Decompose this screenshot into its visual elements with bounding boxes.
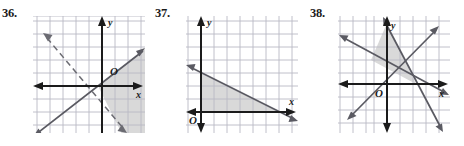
coordinate-plane-36: y x O [33, 16, 145, 133]
x-axis-label-38: x [438, 88, 444, 99]
x-axis-label-37: x [288, 96, 294, 107]
y-axis-label-37: y [206, 17, 212, 28]
problem-number-36: 36. [2, 6, 17, 21]
worksheet-figure-row: 36. [0, 0, 464, 146]
shaded-region-38 [371, 23, 416, 84]
graph-svg-38: y x O [338, 16, 450, 133]
grid-lines-36 [33, 16, 145, 133]
shade-polygon-38 [371, 23, 416, 84]
origin-label-37: O [189, 114, 197, 126]
origin-label-36: O [110, 65, 118, 77]
problem-number-37: 37. [155, 6, 170, 21]
graph-svg-36: y x O [33, 16, 145, 133]
coordinate-plane-38: y x O [338, 16, 450, 133]
y-axis-label-38: y [390, 20, 396, 31]
x-axis-38 [338, 80, 448, 88]
problem-number-38: 38. [310, 6, 325, 21]
y-axis-label-36: y [107, 17, 113, 28]
x-axis-label-36: x [135, 89, 141, 100]
graph-svg-37: y x O [186, 16, 298, 133]
coordinate-plane-37: y x O [186, 16, 298, 133]
origin-label-38: O [375, 87, 383, 99]
